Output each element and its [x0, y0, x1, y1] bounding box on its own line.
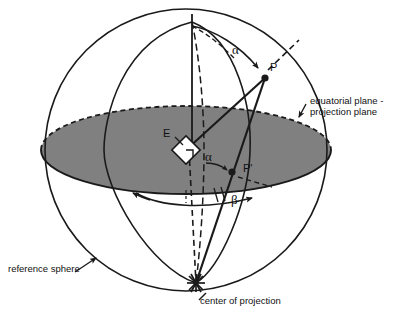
label-equatorial-plane-line2: projection plane — [310, 106, 383, 117]
label-angle-beta: β — [231, 194, 238, 205]
point-P-prime-marker — [228, 168, 235, 175]
label-equatorial-plane-line1: equatorial plane - — [310, 95, 383, 106]
label-sphere-center: E — [163, 128, 170, 139]
equatorial-plane-leader — [299, 104, 306, 117]
center-of-projection-marker — [187, 274, 205, 292]
label-reference-sphere: reference sphere — [8, 263, 80, 274]
label-point-P-prime: P' — [243, 163, 252, 174]
label-angle-alpha-lower: α — [205, 151, 212, 162]
label-angle-alpha-upper: α — [232, 44, 239, 55]
point-P-marker — [261, 74, 268, 81]
label-center-of-projection: center of projection — [200, 295, 281, 306]
stereographic-projection-figure: equatorial plane - projection plane refe… — [0, 0, 415, 318]
beta-arc-left-arrow — [133, 193, 150, 200]
label-point-P: P — [270, 62, 277, 73]
label-equatorial-plane: equatorial plane - projection plane — [310, 95, 383, 117]
